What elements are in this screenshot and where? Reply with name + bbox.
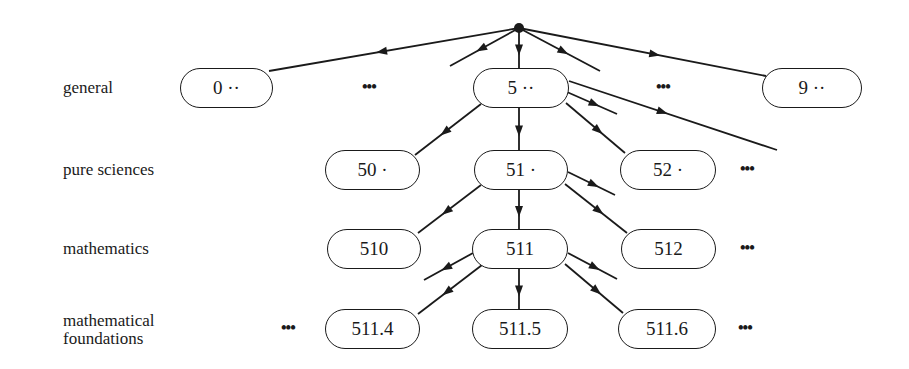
arrowhead-icon <box>441 262 453 271</box>
node-511-6[interactable]: 511.6 <box>618 309 716 349</box>
level-label-pure-sciences: pure sciences <box>63 161 154 179</box>
node-5[interactable]: 5 ·· <box>473 68 569 108</box>
arrowhead-icon <box>588 261 600 270</box>
level-label-mathematics: mathematics <box>63 240 149 258</box>
root-node-dot <box>514 23 524 33</box>
arrowhead-icon <box>476 43 488 52</box>
arrowhead-icon <box>442 205 453 215</box>
arrowhead-icon <box>557 46 569 55</box>
node-51[interactable]: 51 · <box>474 150 568 190</box>
arrowhead-icon <box>656 107 668 115</box>
arrowhead-icon <box>587 179 599 187</box>
node-0[interactable]: 0 ·· <box>180 68 273 108</box>
arrowhead-icon <box>588 98 600 106</box>
ellipsis-foundations-left: ••• <box>281 319 295 337</box>
edge-line <box>569 81 777 150</box>
node-9[interactable]: 9 ·· <box>762 68 862 108</box>
ellipsis-pure-sciences: ••• <box>740 160 754 178</box>
node-511-5[interactable]: 511.5 <box>472 309 568 349</box>
node-510[interactable]: 510 <box>327 229 421 269</box>
node-512[interactable]: 512 <box>621 229 716 269</box>
ellipsis-general-1: ••• <box>362 78 376 96</box>
node-511-4[interactable]: 511.4 <box>325 309 420 349</box>
ellipsis-mathematics: ••• <box>740 239 754 257</box>
arrowhead-icon <box>515 45 523 56</box>
node-511[interactable]: 511 <box>472 229 568 269</box>
level-label-mathematical-foundations: mathematical foundations <box>63 312 155 348</box>
node-52[interactable]: 52 · <box>620 150 716 190</box>
node-50[interactable]: 50 · <box>325 150 420 190</box>
arrowhead-icon <box>515 286 523 297</box>
ellipsis-general-2: ••• <box>656 78 670 96</box>
arrowhead-icon <box>515 126 523 137</box>
arrowhead-icon <box>515 206 523 217</box>
ellipsis-foundations-right: ••• <box>738 319 752 337</box>
level-label-general: general <box>63 79 113 97</box>
arrowhead-icon <box>649 49 661 57</box>
arrowhead-icon <box>376 47 388 55</box>
